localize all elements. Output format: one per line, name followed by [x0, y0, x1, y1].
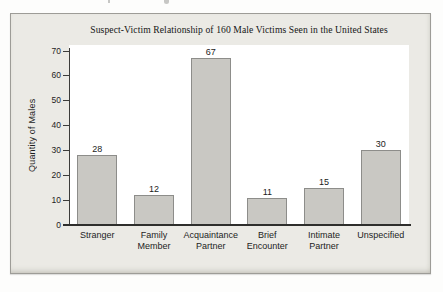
bar-value-label: 12 — [149, 184, 159, 194]
bar-column: 15 — [296, 45, 353, 225]
x-axis-labels: StrangerFamily MemberAcquaintance Partne… — [69, 230, 409, 251]
x-axis-label: Brief Encounter — [239, 230, 296, 251]
bar-value-label: 30 — [376, 139, 386, 149]
plot-area: 010203040506070 281267111530 — [69, 45, 409, 225]
bar-value-label: 67 — [206, 47, 216, 57]
x-axis-label: Intimate Partner — [296, 230, 353, 251]
y-tick-label: 40 — [52, 120, 61, 131]
y-tick-label: 30 — [52, 145, 61, 156]
y-tick-label: 20 — [52, 170, 61, 181]
chart-title: Suspect-Victim Relationship of 160 Male … — [59, 24, 419, 35]
bar — [191, 58, 231, 225]
x-axis-line — [63, 224, 411, 226]
y-tick-label: 70 — [52, 46, 61, 57]
x-axis-label: Stranger — [69, 230, 126, 251]
bar-column: 28 — [69, 45, 126, 225]
x-axis-label: Acquaintance Partner — [182, 230, 239, 251]
bar-column: 30 — [352, 45, 409, 225]
bars-container: 281267111530 — [69, 45, 409, 225]
y-tick-label: 10 — [52, 195, 61, 206]
x-axis-label: Unspecified — [352, 230, 409, 251]
figure-panel: Suspect-Victim Relationship of 160 Male … — [10, 13, 431, 274]
y-tick-label: 60 — [52, 70, 61, 81]
page: Suspect-Victim Relationship of 160 Male … — [0, 0, 443, 292]
cropped-text-remnant — [108, 0, 110, 3]
y-tick-label: 0 — [56, 220, 61, 231]
bar — [247, 198, 287, 225]
bar-value-label: 11 — [263, 187, 272, 197]
y-axis-line — [69, 48, 70, 225]
bar — [77, 155, 117, 225]
bar-column: 11 — [239, 45, 296, 225]
y-tick-label: 50 — [52, 95, 61, 106]
bar-value-label: 28 — [92, 144, 102, 154]
bar-column: 67 — [182, 45, 239, 225]
bar — [304, 188, 344, 225]
bar-column: 12 — [126, 45, 183, 225]
bar — [134, 195, 174, 225]
bar-value-label: 15 — [319, 177, 329, 187]
bar — [361, 150, 401, 225]
x-axis-label: Family Member — [126, 230, 183, 251]
y-axis-title: Quantity of Males — [25, 45, 38, 225]
cropped-text-remnant — [164, 0, 169, 4]
